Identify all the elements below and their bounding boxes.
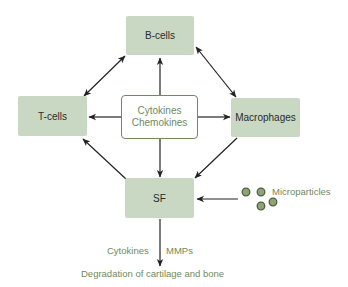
arrow-sf-tcells (83, 139, 126, 179)
label-cytokines: Cytokines (107, 245, 149, 256)
node-b-cells-label: B-cells (145, 30, 175, 41)
center-label-cytokines: Cytokines (138, 105, 182, 117)
rheumatoid-arthritis-cell-interaction-diagram: B-cells T-cells Macrophages Cytokines Ch… (0, 0, 348, 287)
label-mmps: MMPs (166, 245, 193, 256)
label-degradation-outcome: Degradation of cartilage and bone (81, 268, 224, 279)
node-t-cells-label: T-cells (38, 111, 67, 122)
node-cytokines-chemokines: Cytokines Chemokines (121, 95, 198, 139)
node-macrophages-label: Macrophages (235, 112, 296, 123)
arrow-macrophages-sf (195, 138, 237, 178)
node-sf: SF (125, 178, 194, 218)
label-microparticles: Microparticles (272, 186, 331, 197)
center-label-chemokines: Chemokines (132, 117, 188, 129)
node-b-cells: B-cells (126, 16, 194, 55)
arrow-tcells-bcells (84, 56, 125, 96)
node-macrophages: Macrophages (231, 98, 300, 137)
node-t-cells: T-cells (18, 96, 87, 136)
arrow-bcells-macrophages (196, 47, 236, 97)
node-sf-label: SF (153, 193, 166, 204)
